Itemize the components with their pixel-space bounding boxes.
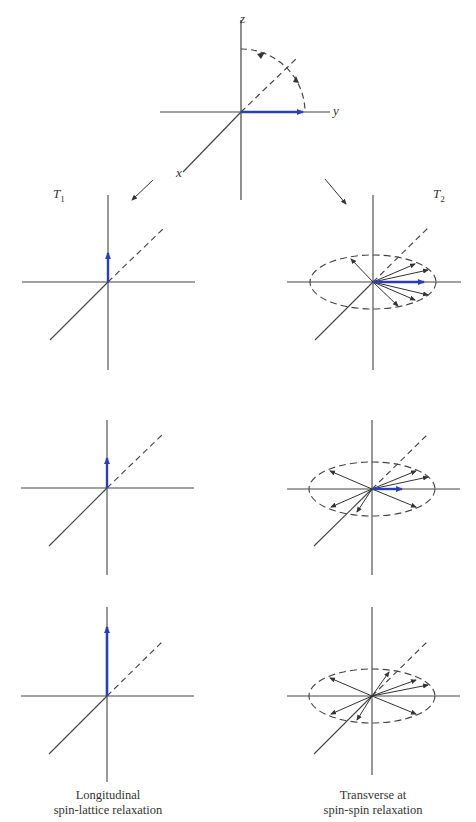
arrow-to-t2 <box>325 179 346 204</box>
t2-title: T2 <box>433 186 445 204</box>
axis-label-y: y <box>333 103 339 119</box>
t2-panel-3 <box>287 607 460 775</box>
arrow-to-t1 <box>132 180 153 200</box>
arc-arrowhead-1 <box>257 52 265 59</box>
t1-panel-1 <box>22 195 195 370</box>
relaxation-diagram <box>0 0 476 822</box>
axis-label-x: x <box>176 165 182 181</box>
t2-panel-1 <box>287 195 461 370</box>
t2-caption: Transverse at spin-spin relaxation <box>293 788 453 818</box>
t1-panel-2 <box>21 420 194 575</box>
t1-caption: Longitudinal spin-lattice relaxation <box>28 788 188 818</box>
t2-panel-2 <box>287 420 460 575</box>
t1-title: T1 <box>53 186 65 204</box>
top-axes <box>160 20 330 200</box>
t1-panel-3 <box>21 607 194 782</box>
axis-label-z: z <box>240 11 245 27</box>
